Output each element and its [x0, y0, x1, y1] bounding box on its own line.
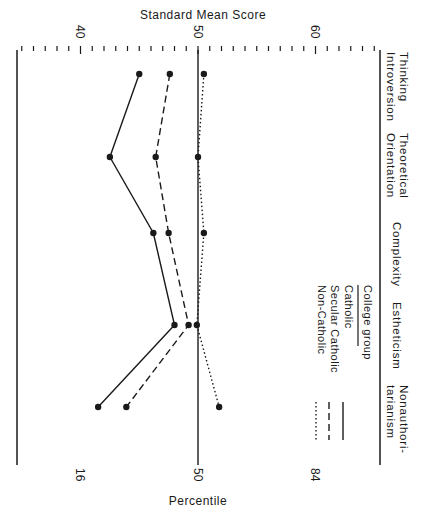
data-point — [167, 71, 173, 77]
data-point — [165, 230, 171, 236]
category-label-theoretical-orientation: TheoreticalOrientation — [384, 133, 410, 199]
legend-label-catholic: Catholic — [343, 285, 355, 329]
series-lines — [95, 71, 222, 410]
series-line-secular-catholic — [126, 74, 188, 407]
bottom-axis-title: Percentile — [148, 494, 248, 508]
data-point — [171, 322, 177, 328]
data-point — [107, 154, 113, 160]
percentile-tick-16: 16 — [73, 468, 87, 481]
category-label-estheticism: Estheticism — [390, 302, 403, 370]
data-point — [95, 404, 101, 410]
series-line-non-catholic — [197, 74, 219, 407]
percentile-tick-50: 50 — [191, 468, 205, 481]
data-point — [194, 322, 200, 328]
category-label-complexity: Complexity — [390, 222, 403, 287]
data-point — [201, 230, 207, 236]
series-line-catholic — [98, 74, 174, 407]
legend-label-secular-catholic: Secular Catholic — [329, 285, 341, 373]
data-point — [195, 154, 201, 160]
chart-plot — [0, 0, 431, 510]
category-label-nonauthoritarianism: Nonauthori-tarianism — [384, 385, 410, 454]
data-point — [150, 230, 156, 236]
legend-label-non-catholic: Non-Catholic — [316, 285, 328, 355]
data-point — [185, 322, 191, 328]
data-point — [216, 404, 222, 410]
data-point — [153, 154, 159, 160]
data-point — [136, 71, 142, 77]
percentile-tick-84: 84 — [308, 468, 322, 481]
category-label-thinking-introversion: ThinkingIntroversion — [384, 52, 410, 122]
legend-title: College group — [362, 285, 374, 360]
data-point — [201, 71, 207, 77]
data-point — [123, 404, 129, 410]
